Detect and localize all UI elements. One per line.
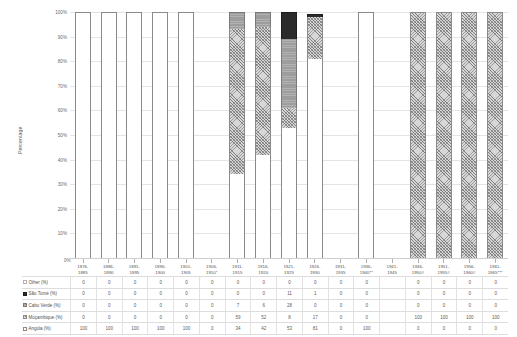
bar-slot	[431, 12, 457, 258]
legend-item-other: Other (%)	[22, 277, 70, 288]
x-axis-tick-mark	[340, 259, 341, 263]
table-cell: 0	[456, 323, 482, 334]
y-axis-tick-label: 60%	[58, 108, 67, 113]
stacked-bar[interactable]	[307, 12, 323, 258]
table-cell	[379, 300, 405, 311]
stacked-bar[interactable]	[436, 12, 452, 258]
table-cell: 0	[353, 277, 379, 288]
table-cell: 0	[431, 300, 457, 311]
bar-segment-mocambique	[436, 12, 452, 258]
table-cell: 34	[225, 323, 251, 334]
table-row: Other (%)0000000000000000	[22, 277, 508, 289]
table-cell: 7	[225, 300, 251, 311]
x-axis-tick-label: 1911-1915	[225, 258, 251, 276]
bar-segment-angola	[281, 128, 297, 258]
legend-item-angola: Angola (%)	[22, 323, 70, 334]
stacked-bar[interactable]	[255, 12, 271, 258]
y-axis-tick-label: 50%	[58, 133, 67, 138]
legend-swatch-icon	[23, 327, 27, 331]
bar-segment-angola	[229, 174, 245, 258]
x-axis-tick-label: 1916-1920	[250, 258, 276, 276]
bar-segment-caboverde	[281, 39, 297, 108]
table-cell: 0	[96, 277, 122, 288]
stacked-bar[interactable]	[101, 12, 117, 258]
table-cell: 0	[353, 312, 379, 323]
bar-segment-angola	[178, 12, 194, 258]
bar-segment-angola	[126, 12, 142, 258]
table-cell: 0	[431, 277, 457, 288]
y-axis-tick-label: 20%	[58, 206, 67, 211]
table-cell: 100	[122, 323, 148, 334]
legend-swatch-icon	[23, 303, 27, 307]
stacked-bar[interactable]	[178, 12, 194, 258]
legend-item-label: Angola (%)	[29, 326, 51, 331]
x-axis-tick-label: 1961-1965***	[482, 258, 508, 276]
table-cell: 0	[147, 300, 173, 311]
table-row-cells: 00000076280000000	[70, 300, 508, 311]
bar-slot	[173, 12, 199, 258]
bar-slot	[225, 12, 251, 258]
x-axis-tick-label: 1931-1935	[328, 258, 354, 276]
legend-item-mocambique: Moçambique (%)	[22, 312, 70, 323]
table-cell: 0	[199, 323, 225, 334]
y-axis-zero-label: 0%	[64, 258, 71, 263]
data-table: 0% 1876-18851886-18901891-18951896-19001…	[22, 258, 508, 334]
y-axis-tick-label: 80%	[58, 59, 67, 64]
x-axis-tick-label: 1921-1925	[276, 258, 302, 276]
table-cell: 0	[96, 300, 122, 311]
table-cell: 8	[276, 312, 302, 323]
stacked-bar[interactable]	[410, 12, 426, 258]
stacked-bar[interactable]	[358, 12, 374, 258]
x-axis-tick-mark	[134, 259, 135, 263]
table-row: São Tomé (%)00000000111000000	[22, 289, 508, 301]
table-cell: 0	[225, 289, 251, 300]
x-axis-tick-label: 1876-1885	[70, 258, 96, 276]
table-cell: 100	[173, 323, 199, 334]
stacked-bar[interactable]	[75, 12, 91, 258]
table-cell	[379, 312, 405, 323]
bar-segment-mocambique	[410, 12, 426, 258]
table-cell: 0	[328, 300, 354, 311]
x-axis-tick-mark	[160, 259, 161, 263]
table-row: Cabo Verde (%)00000076280000000	[22, 300, 508, 312]
bar-segment-saotome	[281, 12, 297, 39]
table-cell: 0	[328, 289, 354, 300]
table-cell: 0	[70, 312, 96, 323]
stacked-bar[interactable]	[461, 12, 477, 258]
bar-slot	[199, 12, 225, 258]
x-axis-tick-label: 1951-1955#	[431, 258, 457, 276]
bar-segment-mocambique	[461, 12, 477, 258]
bar-slot	[353, 12, 379, 258]
plot-area: 0%10%20%30%40%50%60%70%80%90%100%	[70, 12, 508, 258]
bar-slot	[328, 12, 354, 258]
stacked-bar[interactable]	[281, 12, 297, 258]
table-cell: 0	[405, 289, 431, 300]
stacked-bar[interactable]	[152, 12, 168, 258]
table-cell: 0	[353, 289, 379, 300]
bar-segment-mocambique	[229, 29, 245, 174]
bar-slot	[96, 12, 122, 258]
table-cell: 0	[482, 300, 508, 311]
table-cell: 0	[122, 289, 148, 300]
table-cell: 100	[405, 312, 431, 323]
bar-segment-caboverde	[229, 12, 245, 29]
table-cell: 0	[482, 277, 508, 288]
y-axis-tick-label: 70%	[58, 83, 67, 88]
table-cell: 0	[456, 277, 482, 288]
y-axis-tick-label: 90%	[58, 34, 67, 39]
table-cell: 0	[147, 289, 173, 300]
x-axis-tick-mark	[263, 259, 264, 263]
table-cell: 0	[250, 277, 276, 288]
x-axis-tick-mark	[83, 259, 84, 263]
stacked-bar[interactable]	[126, 12, 142, 258]
bar-segment-mocambique	[487, 12, 503, 258]
table-cell: 0	[456, 289, 482, 300]
stacked-bar[interactable]	[487, 12, 503, 258]
table-cell: 0	[199, 300, 225, 311]
bar-slot	[70, 12, 96, 258]
y-axis-tick-label: 10%	[58, 231, 67, 236]
table-cell: 0	[482, 289, 508, 300]
stacked-bar[interactable]	[229, 12, 245, 258]
table-header-cells: 1876-18851886-18901891-18951896-19001901…	[70, 258, 508, 276]
x-axis-tick-mark	[289, 259, 290, 263]
